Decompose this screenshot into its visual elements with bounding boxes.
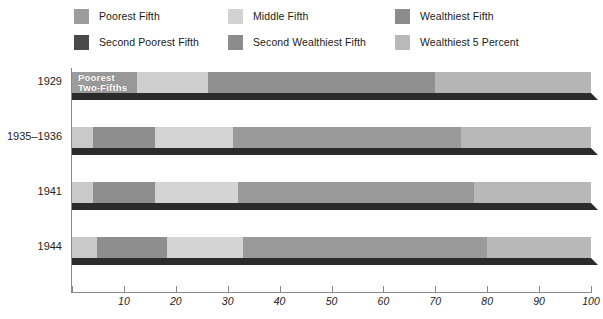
legend-label: Wealthiest 5 Percent — [420, 37, 519, 48]
bar-segment[interactable] — [72, 127, 93, 148]
x-tick-mark — [72, 286, 73, 293]
bar-segment[interactable] — [435, 72, 591, 93]
x-tick-mark — [332, 286, 333, 293]
x-tick-mark — [591, 286, 592, 293]
plot-area: 102030405060708090100 1929Poorest Two-Fi… — [72, 68, 591, 292]
bar-row[interactable]: 1941 — [72, 182, 591, 210]
bar-shadow-tip — [591, 93, 598, 100]
bar-segment[interactable] — [167, 237, 243, 258]
bar-stack — [72, 72, 591, 93]
bar-segment[interactable] — [137, 72, 209, 93]
bar-row-label: 1944 — [38, 240, 62, 252]
bar-segment[interactable] — [93, 182, 155, 203]
bar-segment[interactable] — [155, 127, 233, 148]
x-tick-mark — [280, 286, 281, 293]
bar-shadow — [72, 93, 591, 100]
x-tick-mark — [124, 286, 125, 293]
x-tick-label: 90 — [533, 295, 545, 307]
bar-segment[interactable] — [243, 237, 487, 258]
bar-row[interactable]: 1935–1936 — [72, 127, 591, 155]
bar-segment[interactable] — [93, 127, 155, 148]
bar-row[interactable]: 1944 — [72, 237, 591, 265]
bar-segment[interactable] — [474, 182, 591, 203]
legend-swatch — [395, 35, 410, 50]
bar-row[interactable]: 1929Poorest Two-Fifths — [72, 72, 591, 100]
bar-segment[interactable] — [487, 237, 591, 258]
bar-shadow-tip — [591, 258, 598, 265]
legend-swatch — [228, 35, 243, 50]
bar-shadow-tip — [591, 148, 598, 155]
legend-item[interactable]: Wealthiest Fifth — [395, 8, 494, 25]
legend-item[interactable]: Second Poorest Fifth — [74, 34, 199, 51]
bar-segment[interactable] — [461, 127, 591, 148]
legend-label: Middle Fifth — [253, 11, 308, 22]
legend-swatch — [74, 9, 89, 24]
x-tick-label: 80 — [481, 295, 493, 307]
x-tick-mark — [383, 286, 384, 293]
income-distribution-chart: Poorest FifthMiddle FifthWealthiest Fift… — [0, 0, 603, 319]
bar-segment[interactable] — [97, 237, 167, 258]
bar-segment[interactable] — [155, 182, 238, 203]
bar-segment[interactable] — [233, 127, 461, 148]
legend-label: Second Wealthiest Fifth — [253, 37, 366, 48]
bar-stack — [72, 127, 591, 148]
bar-segment[interactable] — [72, 237, 97, 258]
legend-item[interactable]: Middle Fifth — [228, 8, 308, 25]
bar-segment[interactable] — [208, 72, 435, 93]
x-tick-label: 70 — [429, 295, 441, 307]
x-tick-label: 10 — [118, 295, 130, 307]
x-tick-label: 100 — [582, 295, 600, 307]
bar-stack — [72, 237, 591, 258]
bar-shadow-tip — [591, 203, 598, 210]
bar-row-label: 1935–1936 — [7, 130, 62, 142]
x-tick-label: 20 — [170, 295, 182, 307]
x-tick-mark — [176, 286, 177, 293]
bar-segment[interactable] — [238, 182, 474, 203]
bar-row-label: 1941 — [38, 185, 62, 197]
legend-item[interactable]: Poorest Fifth — [74, 8, 160, 25]
x-tick-mark — [228, 286, 229, 293]
bar-row-label: 1929 — [38, 75, 62, 87]
legend-label: Poorest Fifth — [99, 11, 160, 22]
legend-swatch — [74, 35, 89, 50]
legend-label: Wealthiest Fifth — [420, 11, 494, 22]
bar-shadow — [72, 148, 591, 155]
bar-shadow — [72, 203, 591, 210]
bar-stack — [72, 182, 591, 203]
x-tick-label: 40 — [274, 295, 286, 307]
legend-swatch — [395, 9, 410, 24]
x-tick-label: 30 — [222, 295, 234, 307]
x-tick-mark — [435, 286, 436, 293]
bar-shadow — [72, 258, 591, 265]
chart-legend: Poorest FifthMiddle FifthWealthiest Fift… — [70, 4, 598, 58]
x-tick-mark — [487, 286, 488, 293]
legend-label: Second Poorest Fifth — [99, 37, 199, 48]
legend-item[interactable]: Wealthiest 5 Percent — [395, 34, 519, 51]
legend-swatch — [228, 9, 243, 24]
x-tick-label: 60 — [378, 295, 390, 307]
legend-item[interactable]: Second Wealthiest Fifth — [228, 34, 366, 51]
bar-segment[interactable] — [72, 182, 93, 203]
bar-inline-annotation: Poorest Two-Fifths — [78, 73, 127, 93]
x-tick-label: 50 — [326, 295, 338, 307]
x-tick-mark — [539, 286, 540, 293]
